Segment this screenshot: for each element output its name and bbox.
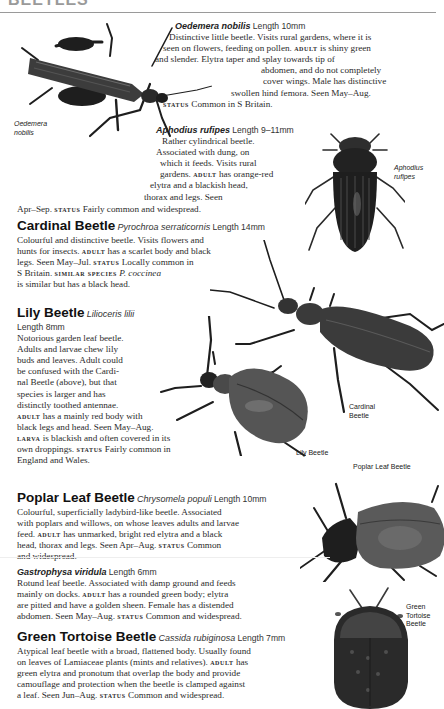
poplar-leaf-beetle-image xyxy=(300,472,444,582)
common-name: Poplar Leaf Beetle xyxy=(17,490,135,505)
caption-oedemera-nobilis: Oedemera nobilis xyxy=(14,120,47,137)
label-status: status xyxy=(76,444,102,454)
aphodius-rufipes-image xyxy=(305,128,405,258)
label-status: status xyxy=(54,204,80,214)
scientific-name: Lilioceris lilii xyxy=(87,309,135,319)
scientific-name: Oedemera nobilis xyxy=(175,21,251,31)
scientific-name: Gastrophysa viridula xyxy=(17,567,107,577)
label-adult: adult xyxy=(193,169,216,179)
length: Length 10mm xyxy=(253,21,306,31)
scientific-name: Cassida rubiginosa xyxy=(159,633,236,643)
caption-poplar-leaf-beetle: Poplar Leaf Beetle xyxy=(353,463,411,472)
entry-poplar-leaf-beetle: Poplar Leaf Beetle Chrysomela populi Len… xyxy=(17,490,317,562)
length: Length 8mm xyxy=(17,322,65,332)
common-name: Lily Beetle xyxy=(17,305,85,320)
caption-cardinal-beetle: Cardinal Beetle xyxy=(349,403,375,420)
length: Length 6mm xyxy=(109,567,157,577)
entry-aphodius-rufipes: Aphodius rufipes Length 9–11mm Rather cy… xyxy=(148,125,308,203)
label-adult: adult xyxy=(210,657,233,667)
label-status: status xyxy=(163,99,189,109)
caption-aphodius-rufipes: Aphodius rufipes xyxy=(394,164,423,181)
length: Length 14mm xyxy=(212,222,265,232)
header-rule xyxy=(0,12,436,13)
common-name: Cardinal Beetle xyxy=(17,218,115,233)
section-divider xyxy=(0,557,330,558)
label-similar-species: similar species xyxy=(55,268,118,278)
length: Length 9–11mm xyxy=(232,125,293,135)
caption-green-tortoise-beetle: Green Tortoise Beetle xyxy=(406,603,431,629)
caption-lily-beetle: Lily Beetle xyxy=(296,449,328,458)
entry-green-tortoise-beetle: Green Tortoise Beetle Cassida rubiginosa… xyxy=(17,629,337,701)
label-status: status xyxy=(93,257,119,267)
label-status: status xyxy=(159,540,185,550)
label-adult: adult xyxy=(294,43,317,53)
scientific-name: Aphodius rufipes xyxy=(156,125,230,135)
label-adult: adult xyxy=(82,246,105,256)
lily-beetle-image xyxy=(155,316,315,456)
label-larva: larva xyxy=(17,433,40,443)
common-name: Green Tortoise Beetle xyxy=(17,629,156,644)
label-adult: adult xyxy=(17,411,40,421)
label-status: status xyxy=(117,611,143,621)
label-status: status xyxy=(100,690,126,700)
entry-oedemera-nobilis: Oedemera nobilis Length 10mm Distinctive… xyxy=(163,21,438,110)
scientific-name: Chrysomela populi xyxy=(137,494,212,504)
scientific-name: Pyrochroa serraticornis xyxy=(118,222,211,232)
label-adult: adult xyxy=(37,529,60,539)
field-guide-page: BEETLES Oedemera nobilis Oedemera nobili… xyxy=(0,0,444,709)
label-adult: adult xyxy=(82,589,105,599)
green-tortoise-beetle-image xyxy=(328,582,412,709)
length: Length 10mm xyxy=(214,494,267,504)
entry-aphodius-rufipes-cont: Apr–Sep. status Fairly common and widesp… xyxy=(17,204,317,215)
length: Length 7mm xyxy=(237,633,285,643)
entry-gastrophysa-viridula: Gastrophysa viridula Length 6mm Rotund l… xyxy=(17,567,327,622)
page-header-fragment: BEETLES xyxy=(8,0,89,9)
